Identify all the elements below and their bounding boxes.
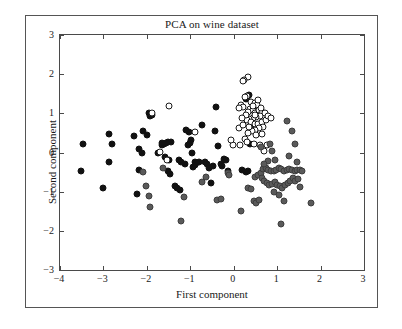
x-tick-label: −4 xyxy=(54,273,65,284)
x-tick-label: −2 xyxy=(141,273,152,284)
scatter-point xyxy=(296,183,303,190)
y-tick-label: 1 xyxy=(32,107,54,118)
scatter-point xyxy=(259,131,266,138)
x-tick-label: 0 xyxy=(230,273,235,284)
scatter-point xyxy=(217,195,224,202)
x-tick xyxy=(234,266,235,270)
y-tick xyxy=(60,270,64,271)
y-tick xyxy=(360,113,364,114)
scatter-point xyxy=(163,157,170,164)
scatter-point xyxy=(166,103,173,110)
scatter-point xyxy=(255,197,262,204)
scatter-point xyxy=(308,200,315,207)
y-tick xyxy=(60,74,64,75)
y-tick xyxy=(360,192,364,193)
x-tick-label: 1 xyxy=(274,273,279,284)
scatter-point xyxy=(288,127,295,134)
scatter-point xyxy=(199,121,206,128)
scatter-point xyxy=(246,123,253,130)
x-tick xyxy=(103,266,104,270)
x-tick-label: −3 xyxy=(97,273,108,284)
scatter-point xyxy=(236,142,243,149)
scatter-point xyxy=(278,220,285,227)
x-tick xyxy=(277,266,278,270)
scatter-point xyxy=(181,194,188,201)
x-tick-label: 3 xyxy=(361,273,366,284)
y-tick xyxy=(360,35,364,36)
scatter-point xyxy=(77,167,84,174)
scatter-point xyxy=(139,169,146,176)
scatter-point xyxy=(291,140,298,147)
scatter-point xyxy=(239,166,246,173)
y-tick xyxy=(60,192,64,193)
x-tick xyxy=(190,266,191,270)
scatter-point xyxy=(249,103,256,110)
scatter-point xyxy=(286,152,293,159)
x-tick xyxy=(364,35,365,39)
scatter-point xyxy=(219,162,226,169)
scatter-point xyxy=(215,142,222,149)
x-tick xyxy=(234,35,235,39)
scatter-point xyxy=(105,131,112,138)
scatter-point xyxy=(209,162,216,169)
scatter-point xyxy=(188,136,195,143)
scatter-point xyxy=(237,208,244,215)
scatter-point xyxy=(167,171,174,178)
y-tick xyxy=(360,270,364,271)
scatter-point xyxy=(134,191,141,198)
figure-panel: PCA on wine dataset Second component Fir… xyxy=(25,15,378,308)
y-tick xyxy=(360,231,364,232)
scatter-point xyxy=(240,78,247,85)
y-tick xyxy=(60,113,64,114)
scatter-point xyxy=(143,132,150,139)
y-tick xyxy=(60,231,64,232)
y-tick-label: 0 xyxy=(32,146,54,157)
scatter-point xyxy=(160,165,167,172)
scatter-point xyxy=(177,217,184,224)
y-tick-label: 3 xyxy=(32,29,54,40)
scatter-point xyxy=(138,149,145,156)
scatter-point xyxy=(182,161,189,168)
scatter-point xyxy=(189,150,196,157)
scatter-point xyxy=(147,203,154,210)
scatter-point xyxy=(257,104,264,111)
x-tick-label: 2 xyxy=(317,273,322,284)
scatter-point xyxy=(202,173,209,180)
y-tick xyxy=(360,74,364,75)
y-tick xyxy=(360,153,364,154)
x-tick xyxy=(147,35,148,39)
x-tick xyxy=(190,35,191,39)
x-tick xyxy=(103,35,104,39)
y-tick xyxy=(60,153,64,154)
y-tick-label: 2 xyxy=(32,68,54,79)
scatter-point xyxy=(80,141,87,148)
x-tick xyxy=(147,266,148,270)
scatter-point xyxy=(109,140,116,147)
y-axis-label: Second component xyxy=(46,82,58,242)
scatter-plot-area xyxy=(60,35,364,270)
scatter-point xyxy=(235,104,242,111)
scatter-point xyxy=(251,111,258,118)
scatter-point xyxy=(156,148,163,155)
scatter-point xyxy=(261,161,268,168)
scatter-point xyxy=(191,129,198,136)
scatter-point xyxy=(294,176,301,183)
scatter-point xyxy=(294,158,301,165)
scatter-point xyxy=(105,158,112,165)
scatter-point xyxy=(208,180,215,187)
scatter-point xyxy=(189,163,196,170)
scatter-point xyxy=(299,167,306,174)
scatter-point xyxy=(99,184,106,191)
scatter-point xyxy=(171,183,178,190)
scatter-point xyxy=(267,140,274,147)
x-tick xyxy=(277,35,278,39)
scatter-point xyxy=(248,186,255,193)
scatter-point xyxy=(283,118,290,125)
scatter-point xyxy=(142,183,149,190)
x-tick-label: −1 xyxy=(184,273,195,284)
scatter-point xyxy=(239,115,246,122)
scatter-point xyxy=(130,133,137,140)
y-tick-label: −1 xyxy=(32,185,54,196)
scatter-point xyxy=(228,136,235,143)
scatter-point xyxy=(149,110,156,117)
